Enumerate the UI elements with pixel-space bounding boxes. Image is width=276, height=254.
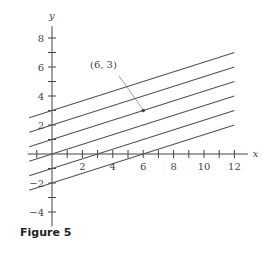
series-line xyxy=(29,82,234,147)
x-tick-label: 10 xyxy=(198,161,211,172)
x-tick-label: 2 xyxy=(79,161,85,172)
x-tick-label: 8 xyxy=(170,161,176,172)
annotation-label: (6, 3) xyxy=(90,59,117,70)
annotation-point xyxy=(141,109,145,113)
y-tick-label: 2 xyxy=(38,120,44,131)
x-axis-label: x xyxy=(253,148,259,159)
y-tick-label: 6 xyxy=(38,62,44,73)
slope-field-chart: 24681012−4−22468xy(6, 3) xyxy=(0,0,276,230)
figure-caption: Figure 5 xyxy=(20,226,71,239)
series-line xyxy=(29,67,234,132)
y-tick-label: 8 xyxy=(38,33,44,44)
y-tick-label: −2 xyxy=(29,178,44,189)
y-axis-label: y xyxy=(48,10,55,21)
x-tick-label: 6 xyxy=(140,161,146,172)
x-tick-label: 4 xyxy=(110,161,116,172)
series-line xyxy=(29,53,234,118)
x-tick-label: 12 xyxy=(228,161,241,172)
y-tick-label: 4 xyxy=(38,91,44,102)
y-tick-label: −4 xyxy=(29,207,44,218)
